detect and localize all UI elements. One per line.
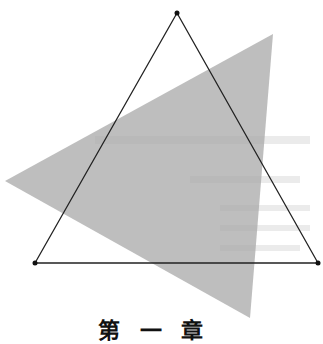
shaded-triangle — [5, 34, 273, 318]
vertex-top — [175, 11, 180, 16]
caption-partial: 第 一 章 — [98, 312, 209, 344]
vertex-bottom-left — [33, 261, 38, 266]
vertex-bottom-right — [316, 261, 321, 266]
